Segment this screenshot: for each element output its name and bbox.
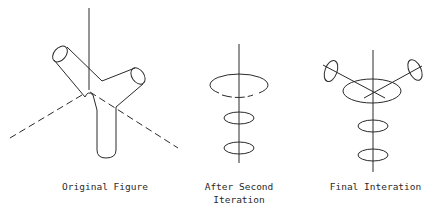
caption-final: Final Interation bbox=[323, 180, 428, 193]
dashed-axis-right bbox=[90, 92, 178, 148]
original-figure bbox=[10, 8, 178, 158]
caption-original: Original Figure bbox=[50, 180, 160, 193]
final-iteration-figure bbox=[322, 50, 425, 172]
left-arm-ring bbox=[322, 59, 341, 84]
left-arm-end-ellipse bbox=[50, 43, 71, 65]
large-ring-lower-broken bbox=[222, 95, 253, 98]
stem-bottom bbox=[97, 150, 116, 158]
diagonal-left bbox=[323, 65, 385, 98]
caption-second-line2: Iteration bbox=[189, 193, 289, 206]
right-arm-end-ellipse bbox=[128, 65, 148, 87]
caption-second-line1: After Second bbox=[189, 180, 289, 193]
left-arm-upper-edge bbox=[67, 47, 102, 81]
right-arm-lower-edge bbox=[116, 84, 143, 107]
dashed-axis-left bbox=[10, 95, 82, 138]
right-arm-upper-edge bbox=[102, 68, 135, 81]
second-iteration-figure bbox=[210, 44, 268, 163]
left-arm-lower-edge bbox=[54, 60, 85, 97]
